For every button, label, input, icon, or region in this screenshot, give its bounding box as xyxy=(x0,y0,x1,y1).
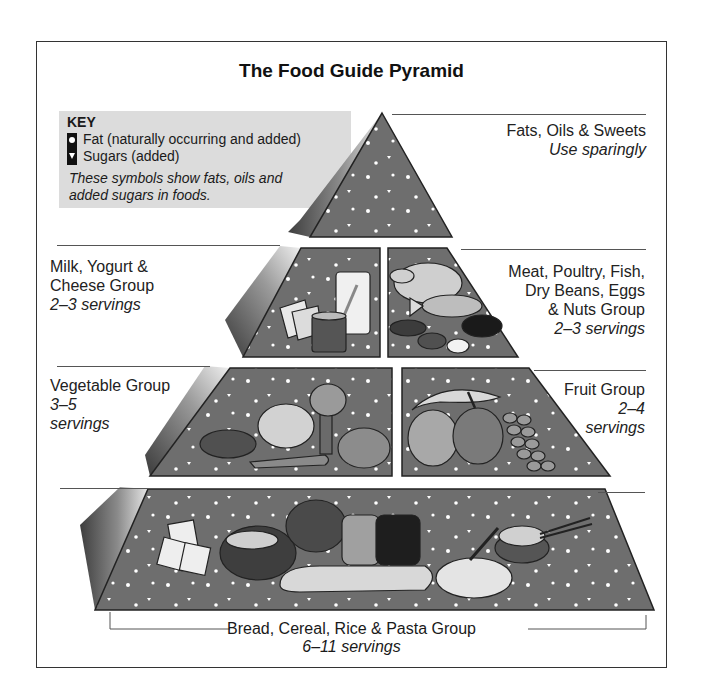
label-meat: Meat, Poultry, Fish, Dry Beans, Eggs & N… xyxy=(450,262,645,338)
rule-milk xyxy=(57,245,280,246)
label-milk: Milk, Yogurt & Cheese Group 2–3 servings xyxy=(50,257,250,314)
rule-vegetable xyxy=(57,366,210,367)
pyramid-graphic xyxy=(0,0,702,699)
rule-fats xyxy=(392,114,646,115)
label-fruit: Fruit Group 2–4 servings xyxy=(520,380,645,437)
rule-bread-right xyxy=(598,492,645,493)
rule-bread-left xyxy=(60,488,150,489)
label-vegetable: Vegetable Group 3–5 servings xyxy=(50,376,210,433)
label-bread: Bread, Cereal, Rice & Pasta Group 6–11 s… xyxy=(36,620,667,656)
rule-meat xyxy=(461,249,646,250)
rule-fruit xyxy=(534,370,646,371)
label-fats: Fats, Oils & Sweets Use sparingly xyxy=(420,121,646,159)
